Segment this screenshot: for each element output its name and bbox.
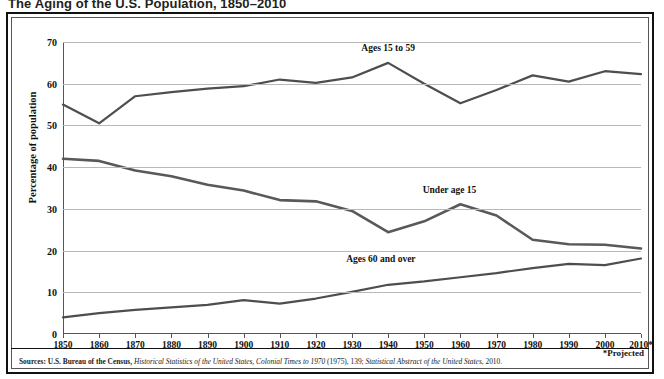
series-annotation: Ages 60 and over xyxy=(346,254,415,264)
x-axis-tickmark xyxy=(280,334,281,338)
x-axis-tickmark xyxy=(569,334,570,338)
series-annotation: Under age 15 xyxy=(423,185,477,195)
source-divider xyxy=(11,348,649,349)
y-axis-tick: 50 xyxy=(47,120,57,131)
plot-area: 0102030405060701850186018701880189019001… xyxy=(63,42,641,334)
x-axis-tickmark xyxy=(352,334,353,338)
x-axis-tickmark xyxy=(533,334,534,338)
gridline xyxy=(63,292,641,293)
source-suffix: , 2010. xyxy=(482,357,502,366)
x-axis-tickmark xyxy=(497,334,498,338)
source-italic-1: Historical Statistics of the United Stat… xyxy=(134,357,325,366)
x-axis-tickmark xyxy=(641,334,642,338)
x-axis-tickmark xyxy=(63,334,64,338)
y-axis-label: Percentage of population xyxy=(27,78,38,218)
x-axis-tickmark xyxy=(388,334,389,338)
x-axis-tickmark xyxy=(460,334,461,338)
figure-root: The Aging of the U.S. Population, 1850–2… xyxy=(0,0,664,379)
y-axis-tick: 70 xyxy=(47,37,57,48)
source-italic-2: Statistical Abstract of the United State… xyxy=(366,357,482,366)
x-axis-tickmark xyxy=(135,334,136,338)
source-prefix: Sources: U.S. Bureau of the Census, xyxy=(19,357,134,366)
series-line xyxy=(63,159,641,249)
y-axis-tick: 0 xyxy=(52,329,57,340)
gridline xyxy=(63,209,641,210)
x-axis-tickmark xyxy=(605,334,606,338)
series-line xyxy=(63,63,641,123)
y-axis-tick: 30 xyxy=(47,203,57,214)
figure-frame: Percentage of population 010203040506070… xyxy=(6,12,654,374)
y-axis-tick: 20 xyxy=(47,245,57,256)
y-axis-tick: 60 xyxy=(47,78,57,89)
x-axis-tickmark xyxy=(424,334,425,338)
source-note: Sources: U.S. Bureau of the Census, Hist… xyxy=(19,357,644,367)
gridline xyxy=(63,251,641,252)
x-axis-tickmark xyxy=(99,334,100,338)
source-mid: (1975), 139; xyxy=(325,357,365,366)
gridline xyxy=(63,84,641,85)
x-axis-tickmark xyxy=(171,334,172,338)
gridline xyxy=(63,167,641,168)
x-axis-tickmark xyxy=(244,334,245,338)
series-lines xyxy=(63,42,641,334)
x-axis-tickmark xyxy=(208,334,209,338)
x-axis-tickmark xyxy=(316,334,317,338)
y-axis-tick: 10 xyxy=(47,287,57,298)
gridline xyxy=(63,42,641,43)
series-line xyxy=(63,259,641,318)
series-annotation: Ages 15 to 59 xyxy=(361,43,415,53)
y-axis-tick: 40 xyxy=(47,162,57,173)
page-title: The Aging of the U.S. Population, 1850–2… xyxy=(8,0,286,11)
gridline xyxy=(63,125,641,126)
